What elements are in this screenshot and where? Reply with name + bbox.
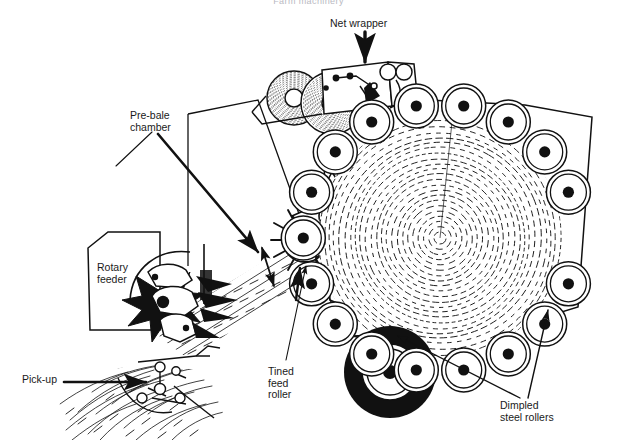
label-net-wrapper: Net wrapper bbox=[330, 18, 387, 30]
leader-pre-bale-2 bbox=[116, 132, 152, 166]
dimpled-steel-roller bbox=[313, 130, 357, 174]
dimpled-steel-roller bbox=[350, 332, 394, 376]
dimpled-steel-roller bbox=[486, 100, 530, 144]
label-pre-bale-chamber: Pre-bale chamber bbox=[130, 110, 171, 133]
dimpled-steel-roller bbox=[350, 100, 394, 144]
baler-cutaway-illustration bbox=[0, 0, 617, 448]
diagram-canvas: Farm machinery bbox=[0, 0, 617, 448]
dimpled-steel-roller bbox=[394, 348, 438, 392]
dimpled-steel-roller bbox=[486, 332, 530, 376]
rotary-feeder bbox=[122, 244, 238, 342]
dimpled-steel-roller bbox=[394, 84, 438, 128]
dimpled-steel-roller bbox=[523, 130, 567, 174]
label-rotary-feeder: Rotary feeder bbox=[97, 262, 128, 285]
dimpled-steel-roller bbox=[442, 84, 486, 128]
label-tined-feed-roller: Tined feed roller bbox=[268, 366, 294, 401]
dimpled-steel-roller bbox=[290, 170, 334, 214]
leader-pre-bale-1 bbox=[158, 134, 258, 252]
dimpled-steel-roller bbox=[546, 170, 590, 214]
label-dimpled-steel-rollers: Dimpled steel rollers bbox=[500, 400, 554, 423]
dimpled-steel-roller bbox=[313, 302, 357, 346]
dimpled-steel-roller bbox=[281, 216, 325, 260]
dimpled-steel-roller bbox=[546, 262, 590, 306]
label-pick-up: Pick-up bbox=[22, 374, 57, 386]
